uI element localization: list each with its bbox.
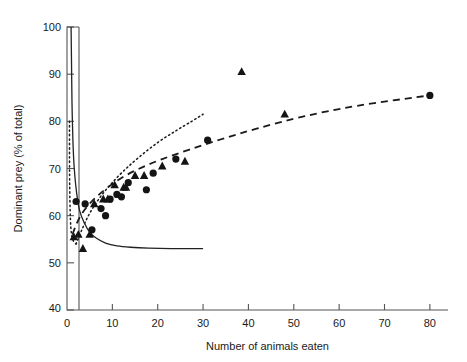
- y-tick-label: 60: [49, 210, 61, 222]
- data-point-circle: [72, 198, 79, 205]
- x-tick-label: 50: [288, 317, 300, 329]
- data-point-triangle: [181, 157, 189, 165]
- data-point-triangle: [140, 171, 148, 179]
- y-axis-ticks: [67, 27, 74, 310]
- x-tick-label: 20: [152, 317, 164, 329]
- x-tick-label: 80: [424, 317, 436, 329]
- y-tick-label: 80: [49, 115, 61, 127]
- y-tick-label: 70: [49, 163, 61, 175]
- data-point-triangle: [158, 162, 166, 170]
- data-point-circle: [143, 186, 150, 193]
- data-point-circle: [172, 155, 179, 162]
- axes-group: 01020304050607080 405060708090100: [43, 21, 448, 329]
- x-tick-label: 40: [242, 317, 254, 329]
- x-tick-label: 0: [64, 317, 70, 329]
- y-tick-label: 90: [49, 68, 61, 80]
- data-point-circle: [82, 200, 89, 207]
- scatter-plot: 01020304050607080 405060708090100 Number…: [0, 0, 467, 362]
- y-tick-label: 50: [49, 257, 61, 269]
- x-tick-label: 10: [106, 317, 118, 329]
- data-point-circle: [118, 193, 125, 200]
- y-axis-title: Dominant prey (% of total): [12, 105, 24, 233]
- data-point-circle: [426, 92, 433, 99]
- x-tick-label: 70: [378, 317, 390, 329]
- data-point-circle: [150, 170, 157, 177]
- data-point-triangle: [237, 67, 245, 75]
- figure-container: 01020304050607080 405060708090100 Number…: [0, 0, 467, 362]
- x-tick-label: 30: [197, 317, 209, 329]
- solid-curve: [71, 27, 203, 249]
- dotted-curve-segment-2: [76, 114, 203, 244]
- y-axis-tick-labels: 405060708090100: [43, 21, 61, 314]
- data-markers-group: [70, 67, 434, 252]
- y-tick-label: 100: [43, 21, 61, 33]
- x-axis-title: Number of animals eaten: [206, 340, 329, 352]
- data-point-circle: [204, 137, 211, 144]
- data-point-circle: [102, 212, 109, 219]
- axis-frame: [67, 27, 448, 310]
- x-axis-tick-labels: 01020304050607080: [64, 317, 436, 329]
- dashed-curve: [72, 95, 429, 234]
- x-tick-label: 60: [333, 317, 345, 329]
- data-point-circle: [97, 205, 104, 212]
- y-tick-label: 40: [49, 302, 61, 314]
- data-point-triangle: [280, 110, 288, 118]
- x-axis-ticks: [112, 304, 430, 310]
- data-point-triangle: [79, 244, 87, 252]
- curves-group: [69, 27, 429, 249]
